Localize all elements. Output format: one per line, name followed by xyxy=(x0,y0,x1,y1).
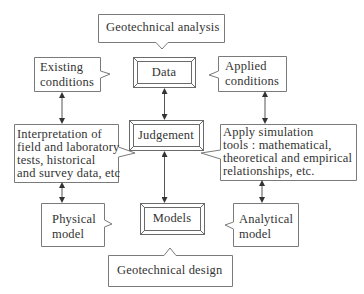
geotechnical-analysis-label: Geotechnical analysis xyxy=(106,20,220,35)
physical-model-label-line2: model xyxy=(52,227,84,242)
interpretation-label-line4: and survey data, etc xyxy=(17,166,120,181)
applied-conditions-label-line2: conditions xyxy=(225,74,279,89)
geotechnical-design-label: Geotechnical design xyxy=(117,263,223,278)
apply-simulation-label-line4: relationships, etc. xyxy=(223,164,315,179)
existing-conditions-label-line1: Existing xyxy=(40,60,83,75)
physical-model-label-line1: Physical xyxy=(52,212,96,227)
existing-conditions-label-line2: conditions xyxy=(40,75,94,90)
applied-conditions-label-line1: Applied xyxy=(225,59,267,74)
data-label: Data xyxy=(133,65,195,80)
analytical-model-label-line1: Analytical xyxy=(239,212,293,227)
judgement-label: Judgement xyxy=(129,128,203,143)
analytical-model-label-line2: model xyxy=(239,227,271,242)
models-label: Models xyxy=(140,211,204,226)
